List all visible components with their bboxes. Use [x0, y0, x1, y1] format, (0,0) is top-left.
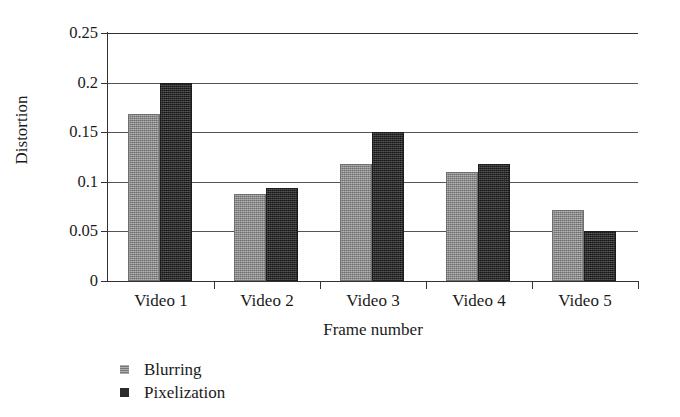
legend-swatch-blurring — [120, 365, 129, 374]
bar-blurring — [340, 164, 372, 281]
y-axis-tick-label: 0.05 — [69, 223, 98, 240]
bar-group — [214, 33, 320, 281]
legend-label: Pixelization — [144, 384, 225, 401]
legend-label: Blurring — [144, 361, 202, 378]
plot-area — [108, 33, 638, 281]
bar-group — [320, 33, 426, 281]
bar-blurring — [446, 172, 478, 281]
bar-blurring — [552, 210, 584, 281]
y-axis-tick — [101, 83, 108, 84]
bar-blurring — [128, 114, 160, 281]
y-axis-tick-label: 0 — [90, 273, 98, 290]
x-axis-title: Frame number — [108, 320, 638, 340]
x-axis-category-label: Video 3 — [320, 292, 426, 309]
x-axis-tick — [532, 282, 533, 289]
y-axis-title: Distortion — [12, 70, 32, 190]
bar-group — [426, 33, 532, 281]
chart-figure: 00.050.10.150.20.25 Distortion Frame num… — [0, 0, 680, 417]
y-axis-tick — [101, 182, 108, 183]
x-axis-category-label: Video 5 — [532, 292, 638, 309]
y-axis-tick-label: 0.25 — [69, 25, 98, 42]
x-axis-line — [107, 281, 639, 282]
y-axis-tick-label: 0.15 — [69, 124, 98, 141]
x-axis-tick — [320, 282, 321, 289]
y-axis-tick — [101, 33, 108, 34]
y-axis-tick — [101, 281, 108, 282]
x-axis-category-label: Video 2 — [214, 292, 320, 309]
bar-pixelization — [160, 83, 192, 281]
y-axis-tick-labels: 00.050.10.150.20.25 — [0, 0, 98, 417]
x-axis-category-label: Video 1 — [108, 292, 214, 309]
y-axis-tick — [101, 132, 108, 133]
x-axis-tick — [638, 282, 639, 289]
chart-legend: BlurringPixelization — [120, 358, 225, 404]
y-axis-tick-label: 0.2 — [77, 75, 98, 92]
x-axis-tick — [214, 282, 215, 289]
bar-group — [108, 33, 214, 281]
bar-group — [532, 33, 638, 281]
legend-item: Pixelization — [120, 381, 225, 404]
legend-item: Blurring — [120, 358, 225, 381]
bar-blurring — [234, 194, 266, 281]
x-axis-tick — [426, 282, 427, 289]
y-axis-tick-label: 0.1 — [77, 174, 98, 191]
bar-pixelization — [478, 164, 510, 281]
legend-swatch-pixelization — [120, 388, 129, 397]
bar-pixelization — [372, 132, 404, 281]
x-axis-category-label: Video 4 — [426, 292, 532, 309]
y-axis-tick — [101, 231, 108, 232]
bar-pixelization — [584, 231, 616, 281]
bar-pixelization — [266, 188, 298, 281]
